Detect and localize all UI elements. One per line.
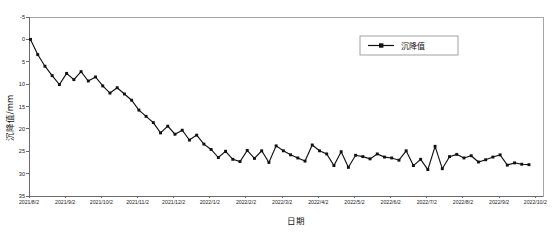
data-point-marker (304, 160, 307, 163)
data-point-marker (282, 149, 285, 152)
data-point-marker (347, 166, 350, 169)
data-point-marker (513, 161, 516, 164)
x-tick-label: 2021/11/2 (126, 199, 149, 205)
data-point-marker (528, 163, 531, 166)
data-point-marker (369, 157, 372, 160)
y-tick-label: 5 (22, 59, 25, 65)
y-tick-label: 35 (19, 193, 25, 199)
chart-background (0, 0, 553, 232)
y-tick-label: 0 (22, 36, 25, 42)
x-axis-title: 日期 (287, 216, 305, 226)
x-tick-label: 2021/10/2 (90, 199, 113, 205)
data-point-marker (325, 152, 328, 155)
data-point-marker (267, 161, 270, 164)
data-point-marker (36, 53, 39, 56)
data-point-marker (181, 129, 184, 132)
data-point-marker (231, 158, 234, 161)
data-point-marker (405, 149, 408, 152)
data-point-marker (29, 38, 32, 41)
data-point-marker (484, 158, 487, 161)
data-point-marker (354, 154, 357, 157)
y-tick-label: 25 (19, 148, 25, 154)
data-point-marker (116, 86, 119, 89)
y-tick-label: 15 (19, 104, 25, 110)
data-point-marker (419, 158, 422, 161)
data-point-marker (340, 150, 343, 153)
data-point-marker (152, 121, 155, 124)
data-point-marker (239, 160, 242, 163)
data-point-marker (137, 109, 140, 112)
data-point-marker (318, 149, 321, 152)
data-point-marker (455, 153, 458, 156)
data-point-marker (426, 168, 429, 171)
x-tick-label: 2022/8/2 (453, 199, 473, 205)
x-tick-label: 2021/8/2 (19, 199, 39, 205)
data-point-marker (109, 92, 112, 95)
data-point-marker (224, 150, 227, 153)
data-point-marker (44, 65, 47, 68)
x-tick-label: 2021/9/2 (55, 199, 75, 205)
legend-label: 沉降值 (401, 41, 425, 51)
data-point-marker (145, 115, 148, 118)
settlement-chart: -505101520253035 2021/8/22021/9/22021/10… (0, 0, 553, 232)
data-point-marker (101, 84, 104, 87)
data-point-marker (463, 157, 466, 160)
data-point-marker (296, 157, 299, 160)
y-axis-title: 沉降值/mm (5, 95, 15, 141)
data-point-marker (58, 83, 61, 86)
data-point-marker (72, 78, 75, 81)
data-point-marker (289, 153, 292, 156)
data-point-marker (195, 134, 198, 137)
data-point-marker (390, 157, 393, 160)
data-point-marker (65, 72, 68, 75)
data-point-marker (87, 80, 90, 83)
data-point-marker (441, 167, 444, 170)
x-tick-label: 2022/2/2 (236, 199, 256, 205)
data-point-marker (246, 149, 249, 152)
x-tick-label: 2022/1/2 (200, 199, 220, 205)
data-point-marker (159, 131, 162, 134)
data-point-marker (253, 157, 256, 160)
x-tick-label: 2022/5/2 (344, 199, 364, 205)
x-tick-label: 2022/6/2 (381, 199, 401, 205)
x-tick-label: 2022/7/2 (417, 199, 437, 205)
data-point-marker (311, 144, 314, 147)
x-tick-label: 2022/10/2 (524, 199, 547, 205)
data-point-marker (275, 144, 278, 147)
data-point-marker (210, 148, 213, 151)
data-point-marker (499, 153, 502, 156)
data-point-marker (217, 156, 220, 159)
data-point-marker (80, 70, 83, 73)
data-point-marker (94, 76, 97, 79)
data-point-marker (202, 143, 205, 146)
chart-legend: 沉降值 (360, 36, 458, 55)
data-point-marker (51, 74, 54, 77)
data-point-marker (123, 93, 126, 96)
data-point-marker (174, 133, 177, 136)
data-point-marker (166, 125, 169, 128)
data-point-marker (506, 164, 509, 167)
data-point-marker (188, 139, 191, 142)
data-point-marker (383, 156, 386, 159)
y-tick-label: 30 (19, 171, 25, 177)
data-point-marker (491, 156, 494, 159)
data-point-marker (130, 99, 133, 102)
data-point-marker (520, 163, 523, 166)
data-point-marker (412, 164, 415, 167)
data-point-marker (434, 145, 437, 148)
x-tick-label: 2021/12/2 (162, 199, 185, 205)
data-point-marker (477, 161, 480, 164)
data-point-marker (260, 149, 263, 152)
data-point-marker (398, 159, 401, 162)
y-tick-label: -5 (20, 14, 25, 20)
data-point-marker (332, 164, 335, 167)
data-point-marker (376, 152, 379, 155)
data-point-marker (448, 155, 451, 158)
y-tick-label: 10 (19, 81, 25, 87)
legend-sample-marker (379, 43, 383, 47)
x-tick-label: 2022/9/2 (489, 199, 509, 205)
x-tick-label: 2022/3/2 (272, 199, 292, 205)
data-point-marker (470, 154, 473, 157)
y-tick-label: 20 (19, 126, 25, 132)
x-tick-label: 2022/4/2 (308, 199, 328, 205)
